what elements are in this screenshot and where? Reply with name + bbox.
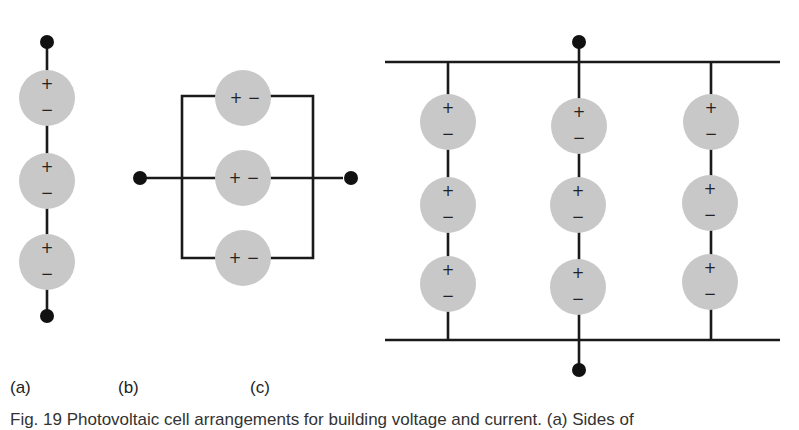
cell-a2: +− xyxy=(19,153,75,209)
svg-text:−: − xyxy=(247,169,260,187)
column-2: +− +− +− xyxy=(550,62,607,340)
svg-text:−: − xyxy=(41,184,54,202)
svg-text:+: + xyxy=(41,75,54,93)
svg-text:+: + xyxy=(705,99,718,117)
panel-label-b: (b) xyxy=(118,378,139,398)
svg-text:−: − xyxy=(442,287,455,305)
svg-text:+: + xyxy=(442,261,455,279)
svg-text:−: − xyxy=(442,125,455,143)
panel-a-series: +− +− +− xyxy=(19,35,75,323)
terminal-bottom xyxy=(572,363,586,377)
svg-text:+: + xyxy=(442,182,455,200)
terminal-top xyxy=(572,35,586,49)
svg-text:+: + xyxy=(442,99,455,117)
svg-text:+: + xyxy=(41,158,54,176)
terminal-top xyxy=(40,35,54,49)
svg-text:+: + xyxy=(704,180,717,198)
cell-b2: +− xyxy=(215,150,271,206)
svg-text:−: − xyxy=(572,208,585,226)
terminal-bottom xyxy=(40,309,54,323)
figure-caption: Fig. 19 Photovoltaic cell arrangements f… xyxy=(10,410,634,430)
svg-text:−: − xyxy=(705,125,718,143)
svg-text:+: + xyxy=(573,103,586,121)
svg-text:−: − xyxy=(247,249,260,267)
svg-text:+: + xyxy=(572,182,585,200)
cell-b3: +− xyxy=(215,230,271,286)
svg-text:−: − xyxy=(248,89,261,107)
svg-text:+: + xyxy=(230,89,243,107)
panel-c-series-parallel: +− +− +− +− +− +− +− +− +− xyxy=(385,35,780,377)
svg-text:+: + xyxy=(229,169,242,187)
panel-b-parallel: +− +− +− xyxy=(133,70,358,286)
column-3: +− +− +− xyxy=(682,62,739,340)
svg-text:+: + xyxy=(572,264,585,282)
column-1: +− +− +− xyxy=(420,62,476,340)
svg-text:+: + xyxy=(41,239,54,257)
cell-a1: +− xyxy=(19,70,75,126)
svg-text:−: − xyxy=(41,265,54,283)
svg-text:+: + xyxy=(704,259,717,277)
svg-text:−: − xyxy=(442,208,455,226)
panel-label-c: (c) xyxy=(250,378,270,398)
svg-text:−: − xyxy=(704,206,717,224)
panel-label-a: (a) xyxy=(10,378,31,398)
terminal-left xyxy=(133,171,147,185)
svg-text:−: − xyxy=(704,285,717,303)
svg-text:−: − xyxy=(572,290,585,308)
cell-b1: +− xyxy=(215,70,271,126)
terminal-right xyxy=(344,171,358,185)
svg-text:+: + xyxy=(229,249,242,267)
svg-text:−: − xyxy=(573,129,586,147)
svg-text:−: − xyxy=(41,101,54,119)
cell-a3: +− xyxy=(19,234,75,290)
